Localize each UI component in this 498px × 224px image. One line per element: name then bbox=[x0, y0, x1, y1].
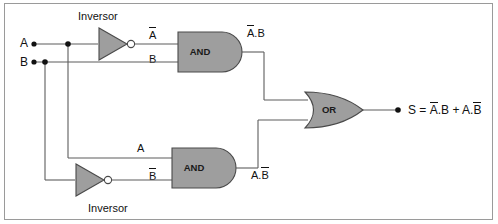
terminal-dot-b bbox=[31, 59, 36, 64]
and-gate-top-label: AND bbox=[190, 46, 211, 57]
junction-dot-b bbox=[42, 59, 48, 65]
inverter-bubble-bottom bbox=[104, 176, 111, 183]
or-gate-label: OR bbox=[322, 104, 336, 115]
terminal-dot-a bbox=[31, 41, 36, 46]
inverter-triangle-top bbox=[99, 28, 127, 60]
output-terminal-dot bbox=[395, 107, 401, 113]
and-gate-bottom-label: AND bbox=[184, 162, 205, 173]
inverter-bubble-top bbox=[127, 40, 134, 47]
circuit-svg: AND AND OR bbox=[0, 0, 498, 224]
inverter-triangle-bottom bbox=[76, 164, 104, 196]
junction-dot-a bbox=[65, 41, 71, 47]
